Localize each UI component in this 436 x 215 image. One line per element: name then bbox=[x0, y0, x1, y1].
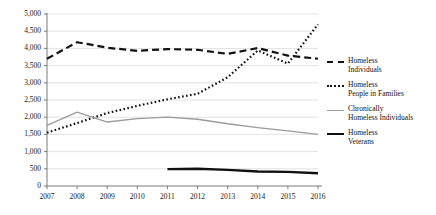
legend-item-label: ChronicallyHomeless Individuals bbox=[348, 104, 413, 122]
legend-line-swatch-icon bbox=[327, 106, 344, 115]
legend-label-line-2: Veterans bbox=[348, 137, 378, 146]
y-axis-tick-label: 3,000 bbox=[0, 78, 41, 87]
y-axis-tick-label: 4,000 bbox=[0, 43, 41, 52]
y-axis-tick-label: 0 bbox=[0, 181, 41, 190]
legend-line-swatch-icon bbox=[327, 130, 344, 139]
legend-label-line-2: Individuals bbox=[348, 65, 382, 74]
legend-label-line-1: Chronically bbox=[348, 104, 413, 113]
series-line-homeless-veterans bbox=[167, 169, 318, 173]
legend-line-swatch-icon bbox=[327, 58, 344, 67]
x-axis-tick-label: 2012 bbox=[182, 192, 214, 201]
y-axis-tick-label: 3,500 bbox=[0, 61, 41, 70]
series-line-chronically-homeless-individuals bbox=[47, 112, 318, 134]
series-line-homeless-individuals bbox=[47, 42, 318, 59]
x-axis-tick-label: 2009 bbox=[91, 192, 123, 201]
chart-legend: HomelessIndividualsHomelessPeople in Fam… bbox=[327, 56, 436, 152]
legend-line-swatch-icon bbox=[327, 82, 344, 91]
x-axis-tick-label: 2014 bbox=[242, 192, 274, 201]
y-axis-tick-label: 2,500 bbox=[0, 95, 41, 104]
x-axis-tick-label: 2011 bbox=[151, 192, 183, 201]
legend-item-homeless-veterans[interactable]: HomelessVeterans bbox=[327, 128, 436, 146]
y-axis-tick-label: 500 bbox=[0, 164, 41, 173]
legend-item-label: HomelessPeople in Families bbox=[348, 80, 404, 98]
legend-item-homeless-people-in-families[interactable]: HomelessPeople in Families bbox=[327, 80, 436, 98]
legend-label-line-2: Homeless Individuals bbox=[348, 113, 413, 122]
x-axis-tick-label: 2013 bbox=[212, 192, 244, 201]
x-axis-tick-label: 2015 bbox=[272, 192, 304, 201]
x-axis-tick-label: 2007 bbox=[31, 192, 63, 201]
y-axis-tick-label: 4,500 bbox=[0, 26, 41, 35]
legend-label-line-1: Homeless bbox=[348, 80, 404, 89]
homeless-counts-line-chart: 05001,0001,5002,0002,5003,0003,5004,0004… bbox=[0, 0, 436, 215]
legend-item-label: HomelessVeterans bbox=[348, 128, 378, 146]
legend-item-homeless-individuals[interactable]: HomelessIndividuals bbox=[327, 56, 436, 74]
legend-label-line-1: Homeless bbox=[348, 128, 378, 137]
y-axis-tick-label: 1,500 bbox=[0, 129, 41, 138]
x-axis-tick-label: 2016 bbox=[302, 192, 334, 201]
x-axis-tick-label: 2010 bbox=[121, 192, 153, 201]
legend-item-chronically-homeless-individuals[interactable]: ChronicallyHomeless Individuals bbox=[327, 104, 436, 122]
y-axis-tick-label: 1,000 bbox=[0, 147, 41, 156]
y-axis-tick-label: 2,000 bbox=[0, 112, 41, 121]
legend-label-line-1: Homeless bbox=[348, 56, 382, 65]
x-axis-tick-label: 2008 bbox=[61, 192, 93, 201]
legend-item-label: HomelessIndividuals bbox=[348, 56, 382, 74]
series-line-homeless-people-in-families bbox=[47, 24, 318, 132]
legend-label-line-2: People in Families bbox=[348, 89, 404, 98]
y-axis-tick-label: 5,000 bbox=[0, 9, 41, 18]
